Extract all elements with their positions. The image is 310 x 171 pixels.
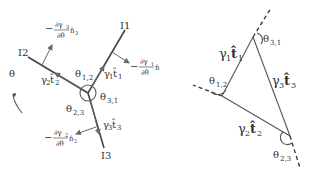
- svg-text:3: 3: [66, 24, 69, 30]
- svg-text:t̂: t̂: [231, 45, 237, 61]
- svg-text:n̂: n̂: [155, 64, 160, 72]
- dashed-extension-bottom: [290, 136, 300, 168]
- svg-text:−: −: [130, 61, 138, 72]
- normal-term-2: − ∂γ 2 ∂θ n̂ 2: [44, 129, 77, 148]
- svg-text:∂θ: ∂θ: [56, 140, 64, 148]
- svg-text:∂γ: ∂γ: [55, 21, 63, 29]
- svg-text:t̂: t̂: [284, 72, 290, 88]
- normal-term-1: − ∂γ 1 ∂θ n̂: [130, 58, 160, 77]
- svg-text:1: 1: [151, 61, 154, 67]
- angle-label-1-2: θ 1,2: [75, 68, 93, 82]
- svg-text:1: 1: [118, 73, 122, 81]
- theta-arrowhead-icon: [12, 93, 16, 97]
- svg-text:θ: θ: [100, 91, 106, 102]
- angle-label-2-3: θ 2,3: [66, 103, 84, 117]
- right-triangle-diagram: θ 3,1 θ 1,2 θ 2,3 γ 1 t̂ 1 γ 3 t̂ 3 γ 2 …: [193, 8, 300, 168]
- left-junction-diagram: I1 I2 I3 θ θ 1,2 θ 3,1 θ 2,3 γ 1 t̂ 1 γ …: [9, 20, 160, 161]
- svg-text:1: 1: [238, 54, 243, 63]
- boundary-label-i3: I3: [101, 150, 111, 161]
- normal-arrow-2: [42, 45, 52, 65]
- normal-term-3-top: − ∂γ 3 ∂θ n̂ 3: [45, 21, 78, 40]
- svg-text:2,3: 2,3: [73, 109, 84, 117]
- theta-rotation-arc: [13, 95, 22, 113]
- svg-text:t̂: t̂: [112, 67, 117, 79]
- svg-text:θ: θ: [75, 68, 81, 79]
- svg-text:∂θ: ∂θ: [57, 32, 65, 40]
- svg-text:∂γ: ∂γ: [140, 58, 148, 66]
- svg-text:3: 3: [117, 124, 121, 132]
- svg-text:−: −: [45, 23, 53, 34]
- boundary-label-i1: I1: [120, 20, 130, 31]
- triangle-angle-label-2-3: θ 2,3: [273, 149, 291, 163]
- svg-text:2: 2: [74, 138, 77, 144]
- svg-text:∂γ: ∂γ: [54, 129, 62, 137]
- normal-arrow-3: [76, 127, 96, 134]
- svg-text:3,1: 3,1: [270, 39, 281, 47]
- svg-text:1,2: 1,2: [82, 74, 93, 82]
- svg-text:3,1: 3,1: [107, 97, 118, 105]
- svg-text:−: −: [44, 132, 52, 143]
- svg-text:θ: θ: [273, 149, 279, 160]
- side-label-3: γ 3 t̂ 3: [272, 72, 296, 90]
- svg-text:2,3: 2,3: [280, 155, 291, 163]
- triple-junction-diagram: I1 I2 I3 θ θ 1,2 θ 3,1 θ 2,3 γ 1 t̂ 1 γ …: [0, 0, 310, 171]
- svg-text:θ: θ: [209, 75, 215, 86]
- svg-text:θ: θ: [66, 103, 72, 114]
- svg-text:1,2: 1,2: [216, 81, 227, 89]
- side-label-1: γ 1 t̂ 1: [219, 45, 243, 63]
- tension-label-1: γ 1 t̂ 1: [104, 67, 122, 81]
- svg-text:t̂: t̂: [49, 73, 54, 85]
- triangle-angle-label-3-1: θ 3,1: [263, 33, 281, 47]
- svg-text:2: 2: [257, 129, 262, 138]
- svg-text:2: 2: [55, 79, 59, 87]
- svg-text:t̂: t̂: [250, 120, 256, 136]
- triangle-angle-label-1-2: θ 1,2: [209, 75, 227, 89]
- tangent-arrow-3: [91, 102, 99, 134]
- angle-arc-3-1: [257, 33, 262, 44]
- theta-label: θ: [9, 68, 15, 79]
- side-label-2: γ 2 t̂ 2: [238, 120, 262, 138]
- normal-arrow-1: [112, 52, 129, 63]
- svg-text:∂θ: ∂θ: [141, 69, 149, 77]
- tension-label-3: γ 3 t̂ 3: [103, 118, 121, 132]
- boundary-label-i2: I2: [18, 47, 28, 58]
- svg-text:3: 3: [291, 81, 296, 90]
- svg-text:t̂: t̂: [111, 118, 116, 130]
- svg-text:2: 2: [65, 132, 68, 138]
- angle-label-3-1: θ 3,1: [100, 91, 118, 105]
- svg-text:θ: θ: [263, 33, 269, 44]
- tangent-arrow-1: [92, 66, 104, 86]
- svg-text:3: 3: [75, 30, 78, 36]
